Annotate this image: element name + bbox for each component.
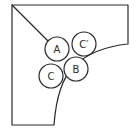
circle-a-label: A — [54, 44, 61, 55]
geometry-diagram: A C′ B C — [0, 0, 138, 132]
circle-c-prime-label: C′ — [79, 39, 89, 50]
circle-b-label: B — [73, 64, 80, 75]
circle-c-prime: C′ — [72, 32, 96, 56]
circle-a: A — [45, 37, 69, 61]
corner-diagonal-line — [12, 5, 48, 41]
diagram-canvas: A C′ B C — [0, 0, 138, 132]
circle-b: B — [64, 57, 88, 81]
circle-c: C — [39, 64, 63, 88]
circle-c-label: C — [48, 71, 55, 82]
